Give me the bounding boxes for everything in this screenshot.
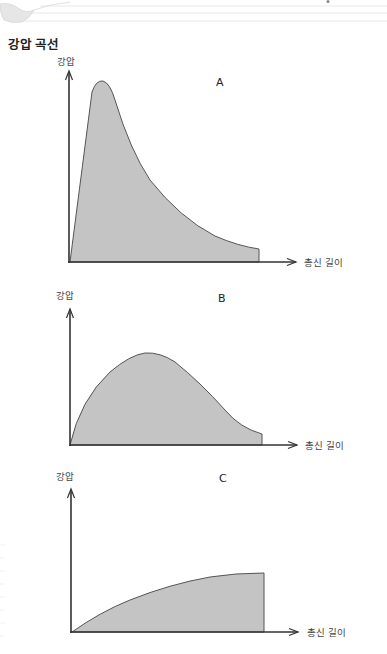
page-edge-decoration (0, 540, 6, 650)
chart-a (66, 71, 297, 266)
chart-a-x-label: 총신 길이 (304, 255, 343, 269)
chart-b-y-label: 강압 (56, 288, 74, 302)
chart-a-panel-label: A (216, 76, 224, 89)
chart-a-area (70, 81, 259, 262)
chart-b-area (70, 353, 262, 445)
chart-b-x-label: 총신 길이 (305, 438, 344, 452)
pressure-curves-figure (0, 0, 387, 654)
chart-b (67, 309, 298, 449)
chart-c (68, 489, 299, 636)
chart-a-y-label: 강압 (57, 54, 75, 68)
chart-c-y-label: 강압 (56, 469, 74, 483)
chart-b-panel-label: B (218, 292, 226, 305)
chart-c-area (72, 573, 264, 632)
chart-c-x-label: 총신 길이 (307, 625, 346, 639)
chart-c-panel-label: C (219, 472, 227, 485)
